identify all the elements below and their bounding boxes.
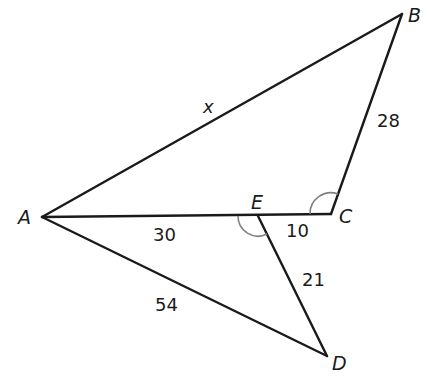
vertex-label-d: D [332, 352, 347, 374]
side-label-ed: 21 [302, 269, 325, 290]
segment-ac [42, 214, 331, 217]
segment-ab [42, 14, 402, 217]
vertex-label-e: E [251, 191, 263, 213]
side-label-ab: x [202, 96, 214, 117]
side-label-ae: 30 [153, 224, 176, 245]
segment-ad [42, 217, 327, 356]
side-label-bc: 28 [377, 110, 400, 131]
vertex-label-c: C [339, 205, 353, 227]
side-label-ad: 54 [155, 294, 178, 315]
vertex-label-a: A [16, 206, 31, 228]
side-label-ec: 10 [286, 220, 309, 241]
geometry-diagram: A B C D E x 28 30 10 21 54 [0, 0, 427, 385]
vertex-label-b: B [408, 4, 421, 26]
